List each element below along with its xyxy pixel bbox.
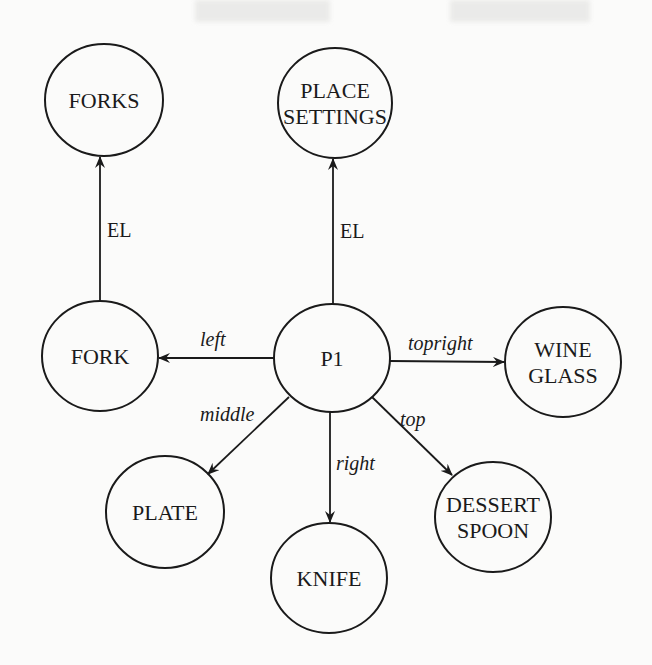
edge-p1-left-fork: left (159, 328, 274, 358)
node-label: KNIFE (297, 566, 362, 591)
node-label: PLACE (300, 78, 370, 103)
node-label: SETTINGS (283, 104, 387, 129)
node-label: P1 (320, 346, 343, 371)
node-place-settings: PLACESETTINGS (278, 48, 392, 158)
edge-label: EL (340, 220, 364, 242)
node-dessert-spoon: DESSERTSPOON (435, 462, 551, 572)
edge-label: topright (408, 332, 473, 355)
edge-label: left (200, 328, 226, 351)
edge-p1-topright-wine-glass: topright (390, 332, 504, 362)
node-label: DESSERT (446, 492, 541, 517)
edge-label: top (400, 408, 426, 431)
node-knife: KNIFE (271, 523, 387, 633)
node-label: PLATE (132, 500, 198, 525)
node-label: SPOON (457, 518, 529, 543)
node-fork: FORK (42, 301, 158, 411)
nodes-layer: FORKSPLACESETTINGSFORKP1WINEGLASSPLATEKN… (42, 44, 621, 633)
edges-layer: ELELlefttoprightmiddlerighttop (100, 157, 504, 522)
edge-p1-right-knife: right (330, 412, 375, 522)
node-label: GLASS (528, 363, 598, 388)
edge-label: middle (200, 403, 255, 425)
edge-fork-el-forks: EL (100, 157, 131, 301)
arrow-icon (390, 361, 504, 362)
node-label: WINE (534, 337, 591, 362)
node-plate: PLATE (106, 456, 224, 568)
node-circle (505, 307, 621, 417)
node-circle (435, 462, 551, 572)
edge-p1-middle-plate: middle (200, 397, 289, 474)
node-label: FORK (71, 344, 130, 369)
edge-label: EL (107, 219, 131, 241)
semantic-network-diagram: ELELlefttoprightmiddlerighttop FORKSPLAC… (0, 0, 652, 665)
node-p1: P1 (274, 304, 390, 412)
node-label: FORKS (69, 88, 140, 113)
edge-p1-top-dessert-spoon: top (372, 397, 452, 475)
edge-label: right (336, 452, 375, 475)
node-circle (278, 48, 392, 158)
node-wine-glass: WINEGLASS (505, 307, 621, 417)
node-forks: FORKS (45, 44, 163, 156)
edge-p1-el-place-settings: EL (333, 159, 364, 304)
